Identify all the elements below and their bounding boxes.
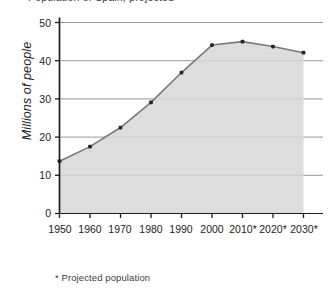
data-point-1990 bbox=[180, 71, 184, 75]
plot-area bbox=[0, 0, 330, 296]
data-point-1980 bbox=[149, 100, 153, 104]
data-point-2010 bbox=[241, 40, 245, 44]
data-point-1960 bbox=[88, 145, 92, 149]
data-point-1970 bbox=[119, 126, 123, 130]
data-point-2030 bbox=[302, 51, 306, 55]
population-area-chart: Population of Spain, projected Millions … bbox=[0, 0, 330, 296]
data-point-2020 bbox=[271, 45, 275, 49]
chart-footnote: * Projected population bbox=[55, 272, 150, 283]
data-point-2000 bbox=[210, 43, 214, 47]
area-fill bbox=[60, 42, 304, 214]
